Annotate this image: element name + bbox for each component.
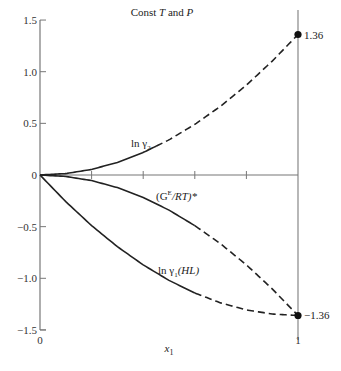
x-tick-label: 0 bbox=[37, 334, 43, 346]
ln-gamma2-curve-dashed bbox=[156, 35, 298, 147]
y-tick-label: 1.5 bbox=[23, 14, 37, 26]
y-tick-label: −1.0 bbox=[17, 272, 37, 284]
ln-gamma2-curve bbox=[40, 35, 298, 175]
value-annotation: 1.36 bbox=[304, 29, 324, 41]
y-tick-label: −0.5 bbox=[17, 221, 37, 233]
chart-title: Const T and P bbox=[131, 6, 194, 18]
ln-gamma1-hl-curve-dashed bbox=[195, 293, 298, 316]
axes bbox=[40, 10, 298, 340]
ge-rt-star-curve-dashed bbox=[195, 226, 298, 316]
x-tick-label: 1 bbox=[295, 334, 301, 346]
y-tick-label: 0.5 bbox=[23, 117, 37, 129]
chart: 1.51.00.50−0.5−1.0−1.5011.36−1.36Const T… bbox=[0, 0, 341, 371]
y-tick-label: 0 bbox=[32, 169, 38, 181]
endpoint-marker bbox=[294, 312, 301, 319]
y-tick-label: 1.0 bbox=[23, 66, 37, 78]
y-tick-label: −1.5 bbox=[17, 324, 37, 336]
label-ge-rt-star: (GE/RT)* bbox=[156, 189, 197, 203]
ln-gamma2-curve-solid bbox=[40, 146, 156, 175]
label-ln-gamma2: ln γ2 bbox=[131, 137, 151, 152]
labels: 1.51.00.50−0.5−1.0−1.5011.36−1.36Const T… bbox=[17, 6, 330, 357]
endpoint-marker bbox=[294, 31, 301, 38]
value-annotation: −1.36 bbox=[304, 309, 330, 321]
x-axis-label: x1 bbox=[164, 342, 174, 357]
